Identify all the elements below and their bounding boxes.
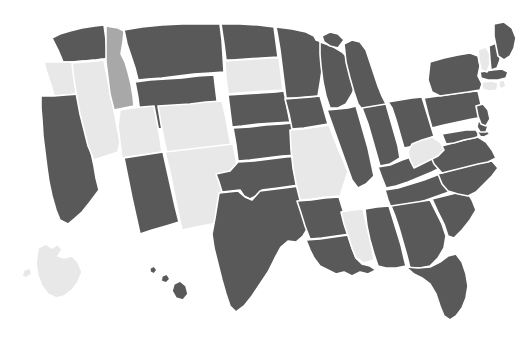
- map-canvas: WashingtonOregonCaliforniaNevadaIdahoMon…: [0, 0, 530, 344]
- state-mn[interactable]: Minnesota: [276, 27, 326, 98]
- us-choropleth-map: WashingtonOregonCaliforniaNevadaIdahoMon…: [0, 0, 530, 344]
- state-wa[interactable]: Washington: [52, 25, 108, 62]
- states-layer: WashingtonOregonCaliforniaNevadaIdahoMon…: [22, 22, 516, 320]
- state-ne[interactable]: Nebraska: [228, 91, 290, 127]
- state-ri[interactable]: Rhode Island: [499, 80, 506, 89]
- state-nd[interactable]: North Dakota: [221, 24, 278, 60]
- state-sd[interactable]: South Dakota: [225, 58, 283, 94]
- state-mt[interactable]: Montana: [124, 24, 224, 80]
- state-hi[interactable]: Hawaii: [150, 266, 188, 300]
- state-me[interactable]: Maine: [494, 22, 516, 60]
- state-ny[interactable]: New York: [428, 53, 482, 96]
- state-pa[interactable]: Pennsylvania: [424, 91, 484, 128]
- state-ks[interactable]: Kansas: [233, 123, 298, 161]
- state-ut[interactable]: Utah: [118, 106, 162, 158]
- state-ct[interactable]: Connecticut: [482, 81, 498, 91]
- state-ak[interactable]: Alaska: [22, 244, 82, 298]
- state-ia[interactable]: Iowa: [285, 96, 328, 129]
